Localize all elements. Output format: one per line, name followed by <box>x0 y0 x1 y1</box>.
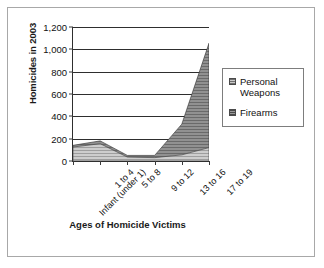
x-tick-label: 17 to 19 <box>225 167 255 197</box>
personal-weapons-swatch-icon <box>229 78 236 85</box>
legend-label-personal-weapons: Personal Weapons <box>240 76 298 98</box>
x-axis-title: Ages of Homicide Victims <box>20 219 235 230</box>
x-tick-mark <box>155 161 156 165</box>
y-axis-title: Homicides in 2003 <box>27 4 38 124</box>
y-tick-label: 600 <box>51 89 67 100</box>
firearms-area <box>73 43 209 161</box>
y-tick-label: 200 <box>51 133 67 144</box>
x-tick-mark <box>182 161 183 165</box>
x-tick-mark <box>127 161 128 165</box>
y-tick-label: 400 <box>51 111 67 122</box>
stacked-area-series <box>73 27 209 161</box>
y-tick-label: 800 <box>51 66 67 77</box>
x-tick-label: 13 to 16 <box>197 167 227 197</box>
chart-frame: Homicides in 2003 02004006008001,0001,20… <box>7 7 315 257</box>
legend-item-personal-weapons: Personal Weapons <box>229 76 298 98</box>
chart-legend: Personal Weapons Firearms <box>222 68 304 127</box>
y-tick-label: 0 <box>62 156 67 167</box>
y-tick-label: 1,000 <box>43 44 67 55</box>
legend-item-firearms: Firearms <box>229 107 298 118</box>
firearms-swatch-icon <box>229 109 236 116</box>
legend-label-firearms: Firearms <box>240 107 277 118</box>
plot-area: 02004006008001,0001,200 Infant (under 1)… <box>73 27 209 161</box>
x-axis-line <box>72 161 210 162</box>
x-tick-mark <box>100 161 101 165</box>
x-tick-mark <box>73 161 74 165</box>
x-tick-label: 9 to 12 <box>169 167 196 194</box>
y-tick-label: 1,200 <box>43 22 67 33</box>
x-tick-mark <box>209 161 210 165</box>
